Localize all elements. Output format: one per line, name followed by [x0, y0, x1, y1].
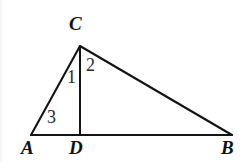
vertex-label-B: B [221, 138, 234, 157]
geometry-figure: C A D B 1 2 3 [0, 0, 248, 162]
angle-label-2: 2 [86, 56, 95, 74]
angle-label-1: 1 [67, 68, 76, 86]
angle-label-3: 3 [47, 108, 56, 126]
vertex-label-D: D [69, 138, 83, 157]
vertex-label-C: C [69, 14, 82, 33]
segment-CB [80, 46, 232, 135]
figure-canvas [0, 0, 248, 162]
vertex-label-A: A [21, 138, 34, 157]
